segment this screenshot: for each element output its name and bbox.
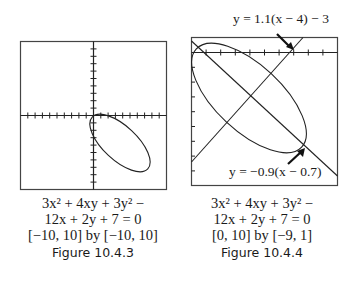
equation-line-1: 3x² + 4xy + 3y² − <box>172 195 352 211</box>
arrow-top <box>277 34 294 50</box>
annotation-top-line: y = 1.1(x − 4) − 3 <box>233 11 329 27</box>
figure-label: Figure 10.4.3 <box>3 245 183 261</box>
viewing-window: [−10, 10] by [−10, 10] <box>3 227 183 243</box>
caption-10-4-4: 3x² + 4xy + 3y² − 12x + 2y + 7 = 0 [0, 1… <box>172 195 352 261</box>
figure-10-4-3: 3x² + 4xy + 3y² − 12x + 2y + 7 = 0 [−10,… <box>0 0 177 281</box>
figure-10-4-4: y = 1.1(x − 4) − 3 y = −0.9(x − 0.7) 3x²… <box>177 0 354 281</box>
annotation-bottom-line: y = −0.9(x − 0.7) <box>229 164 322 180</box>
equation-line-2: 12x + 2y + 7 = 0 <box>3 211 183 227</box>
figure-label: Figure 10.4.4 <box>172 245 352 261</box>
caption-10-4-3: 3x² + 4xy + 3y² − 12x + 2y + 7 = 0 [−10,… <box>3 195 183 261</box>
ellipse-curve <box>81 105 160 182</box>
equation-line-1: 3x² + 4xy + 3y² − <box>3 195 183 211</box>
equation-line-2: 12x + 2y + 7 = 0 <box>172 211 352 227</box>
graph-window-10-4-3 <box>0 0 177 200</box>
viewing-window: [0, 10] by [−9, 1] <box>172 227 352 243</box>
